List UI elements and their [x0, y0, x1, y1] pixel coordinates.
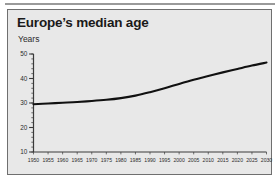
svg-text:2005: 2005: [188, 157, 199, 163]
x-axis: 1950195519601965197019751980198519901995…: [28, 152, 272, 163]
svg-text:1995: 1995: [159, 157, 170, 163]
svg-text:2015: 2015: [217, 157, 228, 163]
svg-text:1985: 1985: [130, 157, 141, 163]
svg-text:10: 10: [20, 148, 28, 155]
svg-text:1965: 1965: [72, 157, 83, 163]
svg-text:2030: 2030: [261, 157, 272, 163]
svg-text:1970: 1970: [86, 157, 97, 163]
svg-text:40: 40: [20, 75, 28, 82]
median-age-line: [34, 63, 267, 105]
svg-text:2010: 2010: [203, 157, 214, 163]
svg-text:50: 50: [20, 50, 28, 57]
svg-text:2000: 2000: [173, 157, 184, 163]
svg-text:20: 20: [20, 124, 28, 131]
chart-figure: Europe’s median age Years 1020304050 195…: [0, 0, 279, 181]
svg-text:2020: 2020: [232, 157, 243, 163]
svg-text:1990: 1990: [144, 157, 155, 163]
svg-text:1980: 1980: [115, 157, 126, 163]
svg-text:1955: 1955: [42, 157, 53, 163]
svg-text:1950: 1950: [28, 157, 39, 163]
chart-plot-area: 1020304050 19501955196019651970197519801…: [0, 0, 279, 181]
svg-text:2025: 2025: [246, 157, 257, 163]
svg-text:1975: 1975: [101, 157, 112, 163]
svg-text:1960: 1960: [57, 157, 68, 163]
svg-text:30: 30: [20, 99, 28, 106]
y-axis: 1020304050: [20, 50, 33, 155]
